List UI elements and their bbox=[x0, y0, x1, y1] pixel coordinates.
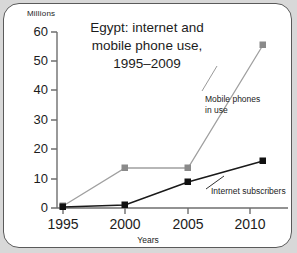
y-axis-tick-label: 0 bbox=[22, 201, 48, 216]
y-axis-tick-label: 10 bbox=[22, 172, 48, 187]
series-internet-point bbox=[122, 202, 129, 209]
y-axis-tick-label: 40 bbox=[22, 83, 48, 98]
y-axis-tick-marks bbox=[51, 32, 57, 208]
series-mobile-point bbox=[260, 42, 267, 49]
y-axis-tick-label: 60 bbox=[22, 25, 48, 40]
series-internet-point bbox=[60, 204, 67, 211]
series-internet-point bbox=[260, 158, 267, 165]
series-internet-point bbox=[185, 179, 192, 186]
series-internet-subscribers bbox=[60, 158, 267, 211]
chart-card: Millions Egypt: internet and mobile phon… bbox=[3, 3, 292, 248]
x-axis-tick-marks bbox=[63, 208, 250, 214]
y-axis-tick-label: 50 bbox=[22, 54, 48, 69]
x-axis-tick-label: 2000 bbox=[102, 216, 148, 232]
series-mobile-point bbox=[185, 165, 192, 172]
annotation-mobile-phones: Mobile phones in use bbox=[205, 94, 260, 117]
chart-title: Egypt: internet and mobile phone use, 19… bbox=[72, 19, 222, 72]
x-axis-label: Years bbox=[123, 236, 173, 246]
annotation-internet-subscribers: Internet subscribers bbox=[211, 186, 286, 197]
x-axis-tick-label: 2005 bbox=[165, 216, 211, 232]
y-axis-unit-label: Millions bbox=[27, 9, 55, 18]
y-axis-tick-label: 20 bbox=[22, 142, 48, 157]
y-axis-tick-label: 30 bbox=[22, 113, 48, 128]
series-mobile-point bbox=[122, 165, 129, 172]
x-axis-tick-label: 1995 bbox=[40, 216, 86, 232]
x-axis-tick-label: 2010 bbox=[227, 216, 273, 232]
